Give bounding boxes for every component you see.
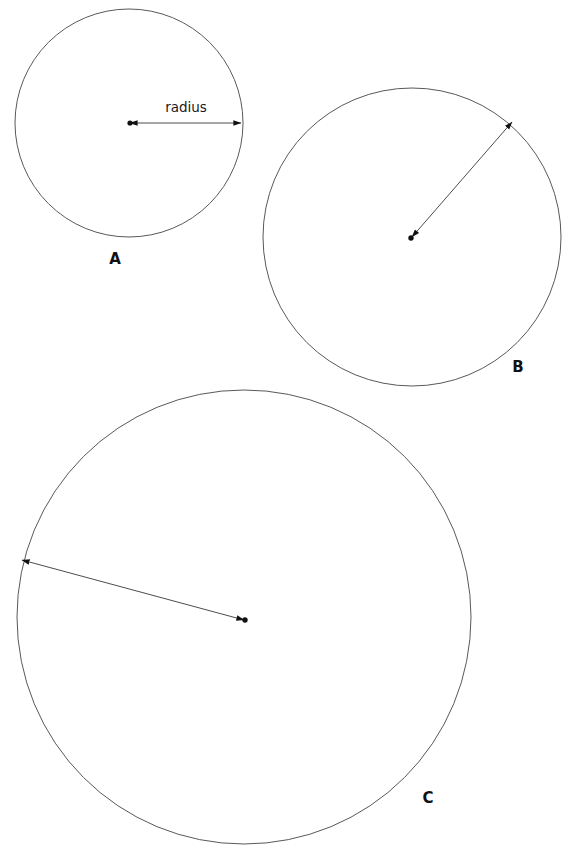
figure-label-a: A: [109, 250, 121, 268]
figure-label-b: B: [512, 358, 523, 376]
radius-label-a: radius: [165, 99, 207, 115]
center-dot-c: [242, 617, 247, 622]
radius-arrow-c: [22, 560, 244, 620]
center-dot-b: [408, 235, 413, 240]
circles-radius-diagram: radius A B C: [0, 0, 565, 864]
center-dot-a: [127, 120, 132, 125]
circle-group-a: radius A: [15, 9, 243, 268]
figure-label-c: C: [422, 789, 433, 807]
circle-group-b: B: [263, 88, 561, 386]
radius-arrow-b: [412, 122, 512, 237]
circle-outline-c: [17, 390, 471, 844]
figure-canvas: radius A B C: [0, 0, 565, 864]
circle-group-c: C: [17, 390, 471, 844]
